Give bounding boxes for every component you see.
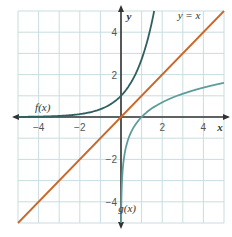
curve-labels: f(x)g(x)y = x xyxy=(35,9,200,215)
y-tick-label: −4 xyxy=(106,197,118,208)
y-axis-label: y xyxy=(125,10,132,22)
x-tick-label: 2 xyxy=(159,122,165,133)
y-tick-label: −2 xyxy=(106,154,118,165)
y-axis-arrow-down-icon xyxy=(118,222,124,229)
x-axis-label: x xyxy=(216,121,223,133)
y-axis-arrow-up-icon xyxy=(118,5,124,12)
x-tick-label: −2 xyxy=(74,122,86,133)
x-axis-arrow-left-icon xyxy=(12,114,19,120)
x-axis-arrow-right-icon xyxy=(223,114,230,120)
y-tick-label: 4 xyxy=(111,27,117,38)
curve-label: y = x xyxy=(177,9,201,21)
graph-canvas: −4−22442−2−4xy f(x)g(x)y = x xyxy=(0,0,232,237)
x-tick-label: −4 xyxy=(33,122,45,133)
curve-label: g(x) xyxy=(118,202,136,215)
x-tick-label: 4 xyxy=(201,122,207,133)
y-tick-label: 2 xyxy=(111,70,117,81)
curve-label: f(x) xyxy=(35,101,51,114)
